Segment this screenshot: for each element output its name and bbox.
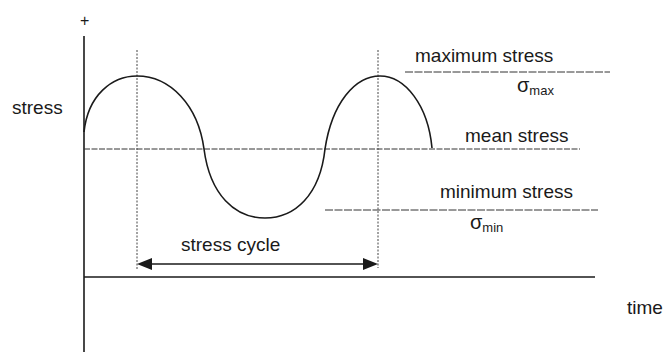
sigma-min-subscript: min xyxy=(482,220,503,235)
sigma-min-label: σmin xyxy=(470,212,503,234)
sigma-max-subscript: max xyxy=(529,83,554,98)
sigma-min-symbol: σ xyxy=(470,211,482,233)
arrow-left-head xyxy=(137,258,152,270)
arrow-right-head xyxy=(363,258,378,270)
time-axis-label: time xyxy=(627,298,663,317)
stress-cycle-label: stress cycle xyxy=(181,235,280,254)
mean-stress-label: mean stress xyxy=(465,126,568,145)
sigma-max-symbol: σ xyxy=(517,74,529,96)
stress-curve xyxy=(84,76,432,218)
min-stress-label: minimum stress xyxy=(440,182,573,201)
stress-axis-label: stress xyxy=(12,98,63,117)
positive-marker: + xyxy=(80,13,89,29)
sigma-max-label: σmax xyxy=(517,75,554,97)
max-stress-label: maximum stress xyxy=(415,46,553,65)
stress-cycle-diagram xyxy=(0,0,671,355)
